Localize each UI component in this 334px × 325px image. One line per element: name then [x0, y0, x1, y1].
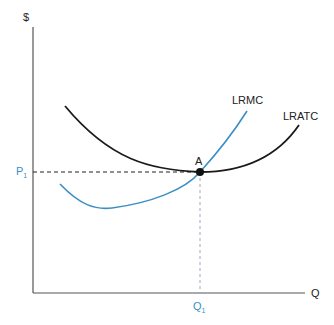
cost-curves-diagram: $ Q P1 Q1 A LRMC LRATC	[0, 0, 334, 325]
y-axis-label: $	[23, 12, 29, 23]
lratc-label: LRATC	[283, 111, 318, 122]
point-a-label: A	[195, 156, 202, 167]
lrmc-curve	[60, 111, 247, 208]
x-axis-label: Q	[311, 288, 320, 299]
quantity-label: Q1	[193, 301, 205, 314]
lrmc-label: LRMC	[232, 95, 263, 106]
price-label: P1	[16, 166, 27, 179]
lratc-curve	[65, 106, 299, 172]
diagram-canvas	[0, 0, 334, 325]
equilibrium-point-a	[196, 168, 204, 176]
quantity-label-sub: 1	[202, 307, 206, 314]
price-label-sub: 1	[23, 172, 27, 179]
quantity-label-text: Q	[193, 300, 202, 312]
